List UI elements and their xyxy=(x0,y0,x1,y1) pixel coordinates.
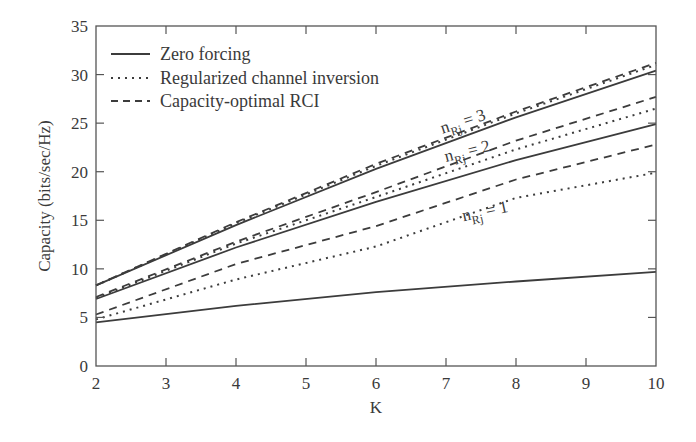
legend-label: Capacity-optimal RCI xyxy=(160,91,319,111)
x-tick-label: 4 xyxy=(232,374,241,393)
legend-label: Regularized channel inversion xyxy=(160,68,379,88)
series-line-solid xyxy=(96,124,656,299)
series-line-dotted xyxy=(96,173,656,320)
x-tick-label: 3 xyxy=(162,374,171,393)
y-tick-label: 0 xyxy=(80,357,89,376)
y-tick-label: 20 xyxy=(71,163,88,182)
legend: Zero forcing Regularized channel inversi… xyxy=(111,44,379,111)
legend-label: Zero forcing xyxy=(160,44,250,64)
y-tick-label: 15 xyxy=(71,211,88,230)
series-line-dotted xyxy=(96,109,656,298)
x-tick-label: 9 xyxy=(582,374,591,393)
y-tick-label: 25 xyxy=(71,114,88,133)
series-line-dashed xyxy=(96,97,656,297)
x-tick-label: 5 xyxy=(302,374,311,393)
series-line-dashed xyxy=(96,145,656,315)
x-tick-label: 2 xyxy=(92,374,101,393)
x-tick-label: 7 xyxy=(442,374,451,393)
legend-item-zero-forcing: Zero forcing xyxy=(111,44,250,64)
y-axis-title: Capacity (bits/sec/Hz) xyxy=(35,120,54,272)
x-axis-title: K xyxy=(370,398,383,417)
legend-item-capacity-optimal-rci: Capacity-optimal RCI xyxy=(111,91,319,111)
x-tick-label: 6 xyxy=(372,374,381,393)
x-tick-label: 8 xyxy=(512,374,521,393)
y-tick-label: 5 xyxy=(80,308,89,327)
y-tick-label: 35 xyxy=(71,17,88,36)
series-line-solid xyxy=(96,272,656,323)
group-label: nRj = 1 xyxy=(460,197,510,229)
y-tick-label: 10 xyxy=(71,260,88,279)
x-tick-label: 10 xyxy=(648,374,665,393)
capacity-vs-k-chart: 2345678910 05101520253035 K Capacity (bi… xyxy=(0,0,696,442)
y-tick-label: 30 xyxy=(71,66,88,85)
legend-item-rci: Regularized channel inversion xyxy=(111,68,379,88)
